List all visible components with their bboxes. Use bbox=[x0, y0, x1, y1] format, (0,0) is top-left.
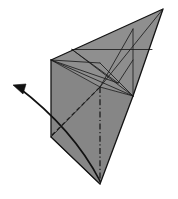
paper-panels bbox=[51, 9, 163, 184]
origami-diagram-figure bbox=[0, 0, 178, 199]
origami-svg-canvas bbox=[0, 0, 178, 199]
